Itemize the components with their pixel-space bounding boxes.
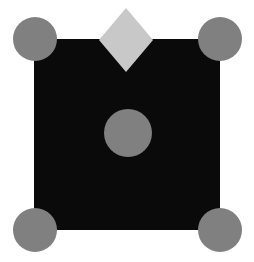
corner-circle-bottom-left	[13, 208, 57, 252]
corner-circle-bottom-right	[198, 208, 242, 252]
corner-circle-top-left	[13, 17, 57, 61]
shape-diagram	[0, 0, 254, 262]
center-circle	[104, 109, 152, 157]
corner-circle-top-right	[198, 17, 242, 61]
figure-canvas: ......	[0, 0, 254, 262]
